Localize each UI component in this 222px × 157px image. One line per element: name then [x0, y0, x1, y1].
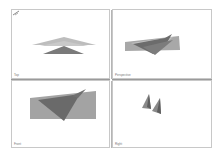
axis-gizmo-icon[interactable]: [12, 10, 20, 16]
viewport-right[interactable]: Right: [112, 80, 212, 148]
model-top-view: [12, 10, 111, 80]
viewport-label: Right: [115, 143, 122, 146]
viewport-label: Front: [14, 143, 21, 146]
viewport-label: Perspective: [115, 74, 131, 77]
viewport-front[interactable]: Front: [11, 80, 110, 148]
viewport-label: Top: [14, 74, 19, 77]
model-front-view: [12, 81, 111, 149]
viewport-vertical-divider[interactable]: [111, 10, 112, 79]
viewport-perspective[interactable]: Perspective: [112, 9, 212, 79]
viewport-top[interactable]: Top: [11, 9, 110, 79]
viewport-vertical-divider[interactable]: [111, 81, 112, 148]
model-right-view: [113, 81, 213, 149]
model-perspective-view: [113, 10, 213, 80]
